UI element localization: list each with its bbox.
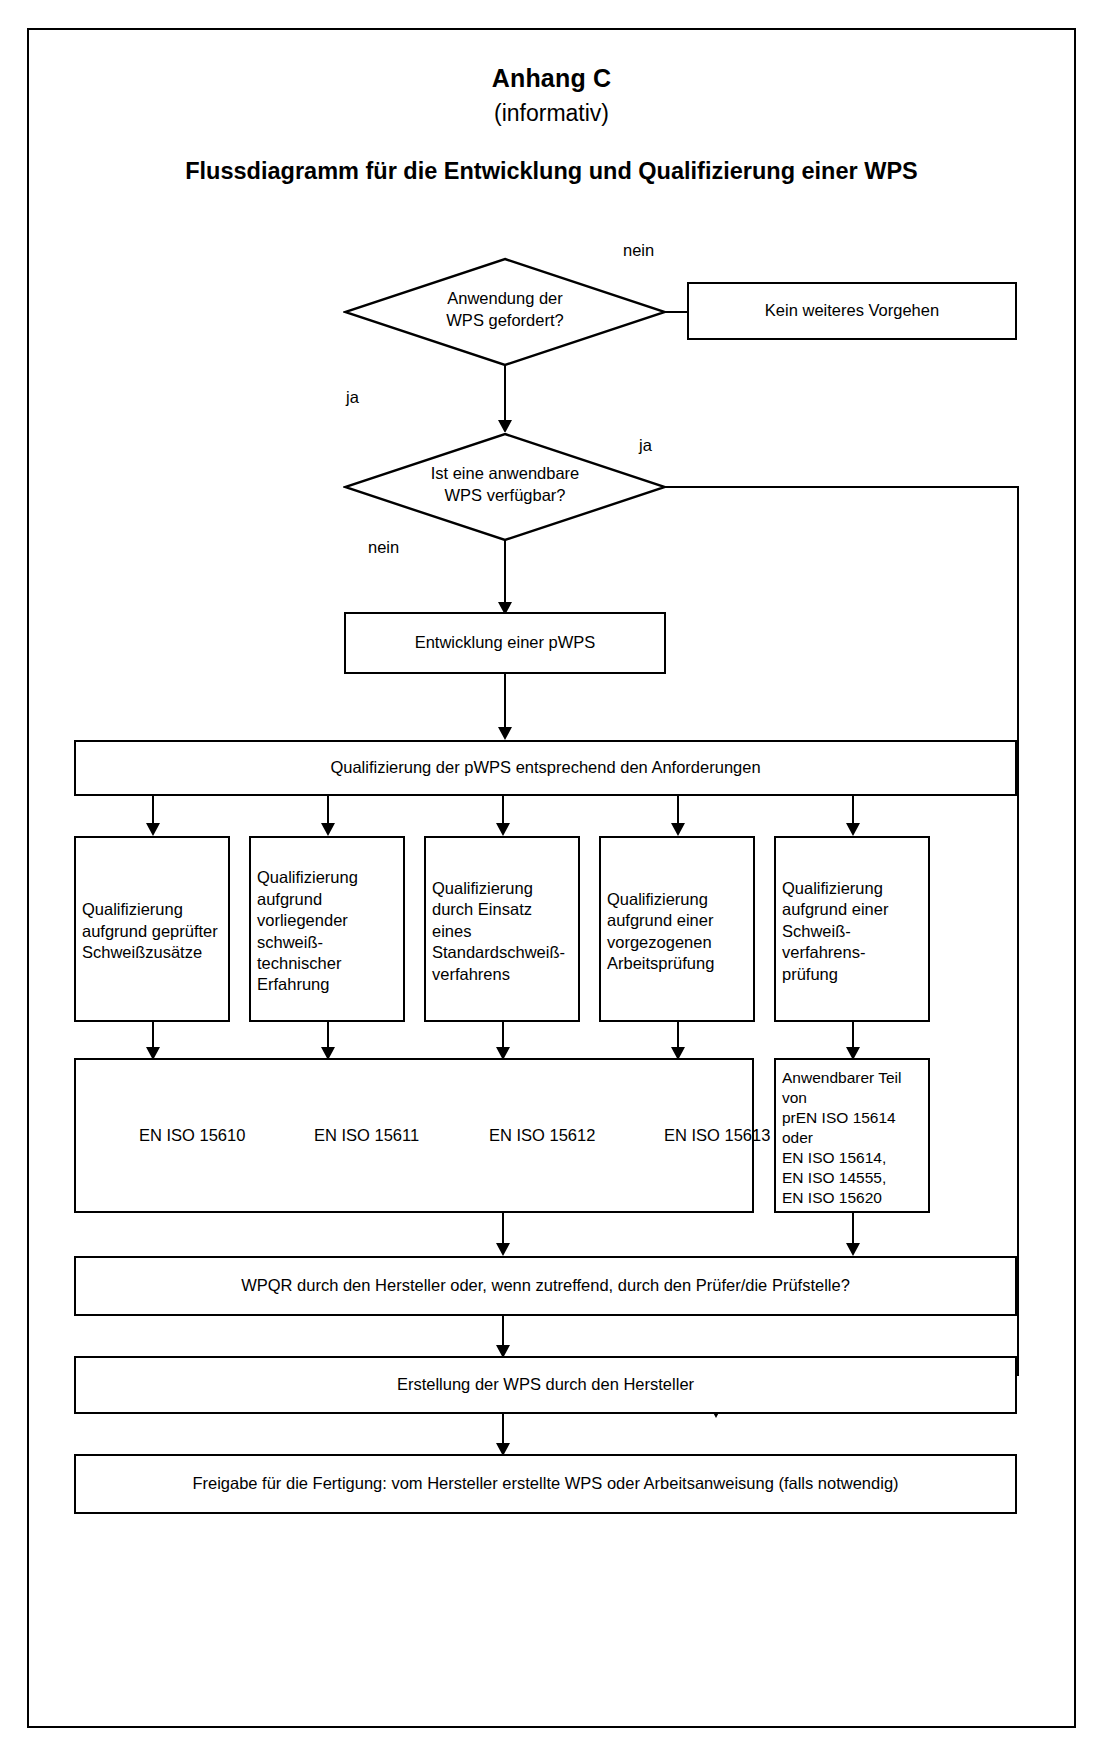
qualification-method-4-line3: vorgezogenen <box>607 932 712 953</box>
node-no-further-action[interactable]: Kein weiteres Vorgehen <box>687 282 1017 340</box>
edge-label-d2-no: nein <box>366 538 401 557</box>
standard-label-3: EN ISO 15612 <box>489 1126 595 1145</box>
node-create-wps-bar[interactable]: Erstellung der WPS durch den Hersteller <box>74 1356 1017 1414</box>
edge-label-d1-yes: ja <box>344 388 361 407</box>
edge-label-d1-no: nein <box>621 241 656 260</box>
node-develop-pwps[interactable]: Entwicklung einer pWPS <box>344 612 666 674</box>
edge-applicable-part-to-wpqr-arrowhead <box>846 1243 860 1256</box>
standard-label-2: EN ISO 15611 <box>314 1126 419 1145</box>
qualification-method-2-line4: schweiß- <box>257 932 323 953</box>
applicable-part-box[interactable]: Anwendbarer Teil von prEN ISO 15614 oder… <box>774 1058 930 1213</box>
qualification-method-3-line5: verfahrens <box>432 964 510 985</box>
edge-standards-to-wpqr-arrowhead <box>496 1243 510 1256</box>
edge-qual-5-arrowhead <box>846 823 860 836</box>
applicable-part-line4: oder <box>782 1128 813 1148</box>
node-release-bar[interactable]: Freigabe für die Fertigung: vom Herstell… <box>74 1454 1017 1514</box>
edge-qual-2-arrowhead <box>321 823 335 836</box>
applicable-part-line6: EN ISO 14555, <box>782 1168 886 1188</box>
qualification-method-5-line2: aufgrund einer <box>782 899 888 920</box>
qualification-method-1-line1: Qualifizierung <box>82 899 183 920</box>
qualification-method-4-line2: aufgrund einer <box>607 910 713 931</box>
qualification-method-4[interactable]: Qualifizierung aufgrund einer vorgezogen… <box>599 836 755 1022</box>
edge-d1-yes <box>504 365 506 426</box>
edge-qual-4-arrowhead <box>671 823 685 836</box>
qualification-method-3-line3: eines <box>432 921 471 942</box>
qualification-method-5-line1: Qualifizierung <box>782 878 883 899</box>
qualification-method-3-line2: durch Einsatz <box>432 899 532 920</box>
diagram-frame: Anhang C (informativ) Flussdiagramm für … <box>27 28 1076 1728</box>
qualification-method-3-line4: Standardschweiß- <box>432 942 565 963</box>
edge-pwps-to-qualification-arrowhead <box>498 727 512 740</box>
edge-d2-yes-vertical <box>1017 486 1019 1376</box>
applicable-part-line3: prEN ISO 15614 <box>782 1108 896 1128</box>
qualification-method-5[interactable]: Qualifizierung aufgrund einer Schweiß- v… <box>774 836 930 1022</box>
qualification-method-2-line5: technischer <box>257 953 341 974</box>
edge-pwps-to-qualification <box>504 674 506 734</box>
qualification-method-5-line3: Schweiß- <box>782 921 851 942</box>
qualification-method-5-line4: verfahrens- <box>782 942 865 963</box>
node-develop-pwps-label: Entwicklung einer pWPS <box>415 632 596 653</box>
qualification-method-3[interactable]: Qualifizierung durch Einsatz eines Stand… <box>424 836 580 1022</box>
qualification-method-2-line1: Qualifizierung <box>257 867 358 888</box>
qualification-method-5-line5: prüfung <box>782 964 838 985</box>
node-wpqr-bar-label: WPQR durch den Hersteller oder, wenn zut… <box>241 1275 850 1296</box>
node-wpqr-bar[interactable]: WPQR durch den Hersteller oder, wenn zut… <box>74 1256 1017 1316</box>
edge-label-d2-yes: ja <box>637 436 654 455</box>
node-no-further-action-label: Kein weiteres Vorgehen <box>765 300 939 321</box>
standard-label-1: EN ISO 15610 <box>139 1126 245 1145</box>
node-create-wps-bar-label: Erstellung der WPS durch den Hersteller <box>397 1374 694 1395</box>
qualification-method-2-line2: aufgrund <box>257 889 322 910</box>
qualification-method-1-line3: Schweißzusätze <box>82 942 202 963</box>
edge-d2-yes-horizontal <box>665 486 1019 488</box>
node-qualification-bar-label: Qualifizierung der pWPS entsprechend den… <box>330 757 760 778</box>
page-canvas: Anhang C (informativ) Flussdiagramm für … <box>0 0 1105 1758</box>
edge-d2-no <box>504 540 506 610</box>
qualification-method-2-line3: vorliegender <box>257 910 348 931</box>
qualification-method-1-line2: aufgrund geprüfter <box>82 921 218 942</box>
applicable-part-line1: Anwendbarer Teil <box>782 1068 901 1088</box>
standard-label-4: EN ISO 15613 <box>664 1126 770 1145</box>
qualification-method-4-line1: Qualifizierung <box>607 889 708 910</box>
decision-wps-required[interactable]: Anwendung der WPS gefordert? <box>343 257 667 367</box>
node-release-bar-label: Freigabe für die Fertigung: vom Herstell… <box>192 1473 898 1494</box>
applicable-part-line7: EN ISO 15620 <box>782 1188 882 1208</box>
figure-title: Flussdiagramm für die Entwicklung und Qu… <box>29 158 1074 185</box>
annex-title: Anhang C <box>29 64 1074 93</box>
qualification-method-2-line6: Erfahrung <box>257 974 329 995</box>
qualification-method-2[interactable]: Qualifizierung aufgrund vorliegender sch… <box>249 836 405 1022</box>
qualification-method-3-line1: Qualifizierung <box>432 878 533 899</box>
qualification-method-1[interactable]: Qualifizierung aufgrund geprüfter Schwei… <box>74 836 230 1022</box>
edge-qual-1-arrowhead <box>146 823 160 836</box>
annex-kind: (informativ) <box>29 100 1074 127</box>
applicable-part-line2: von <box>782 1088 807 1108</box>
decision-wps-available[interactable]: Ist eine anwendbare WPS verfügbar? <box>343 432 667 542</box>
applicable-part-line5: EN ISO 15614, <box>782 1148 886 1168</box>
edge-qual-3-arrowhead <box>496 823 510 836</box>
node-qualification-bar[interactable]: Qualifizierung der pWPS entsprechend den… <box>74 740 1017 796</box>
qualification-method-4-line4: Arbeitsprüfung <box>607 953 714 974</box>
